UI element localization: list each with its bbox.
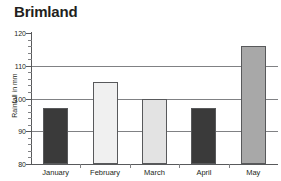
y-axis-tick-label: 90 — [2, 128, 26, 135]
y-axis-minor-tick — [28, 85, 32, 86]
y-axis-minor-tick — [28, 157, 32, 158]
bar-may — [241, 46, 266, 164]
y-axis-minor-tick — [28, 112, 32, 113]
y-axis-minor-tick — [28, 151, 32, 152]
bar-chart: Brimland Rainfall in mm 8090100110120 Ja… — [0, 0, 281, 181]
y-axis-major-tick — [26, 164, 32, 165]
y-axis-minor-tick — [28, 125, 32, 126]
x-axis-tick — [80, 164, 81, 168]
y-axis-minor-tick — [28, 92, 32, 93]
x-axis-tick — [179, 164, 180, 168]
y-axis-tick-label: 110 — [2, 63, 26, 70]
y-axis-minor-tick — [28, 138, 32, 139]
y-axis-tick-labels: 8090100110120 — [0, 0, 26, 181]
y-axis-minor-tick — [28, 144, 32, 145]
y-axis-tick-label: 120 — [2, 30, 26, 37]
y-axis-tick-label: 80 — [2, 161, 26, 168]
y-axis-major-tick — [26, 99, 32, 100]
x-axis-tick-label: March — [130, 168, 179, 177]
bar-march — [142, 99, 167, 165]
y-axis-tick-label: 100 — [2, 96, 26, 103]
bar-february — [93, 82, 118, 164]
plot-area — [31, 33, 278, 164]
x-axis-tick-label: February — [80, 168, 129, 177]
y-axis-minor-tick — [28, 59, 32, 60]
y-axis-major-tick — [26, 33, 32, 34]
y-axis-major-tick — [26, 131, 32, 132]
y-axis-minor-tick — [28, 46, 32, 47]
y-axis-minor-tick — [28, 79, 32, 80]
y-axis-minor-tick — [28, 53, 32, 54]
y-axis-minor-tick — [28, 72, 32, 73]
x-axis-tick-label: May — [229, 168, 278, 177]
x-axis-line — [31, 164, 278, 165]
y-axis-minor-tick — [28, 118, 32, 119]
y-axis-major-tick — [26, 66, 32, 67]
x-axis-tick — [130, 164, 131, 168]
x-axis-tick-label: April — [179, 168, 228, 177]
bar-january — [43, 108, 68, 164]
y-axis-minor-tick — [28, 105, 32, 106]
bar-april — [191, 108, 216, 164]
x-axis-tick — [229, 164, 230, 168]
y-axis-minor-tick — [28, 40, 32, 41]
x-axis-tick-label: January — [31, 168, 80, 177]
